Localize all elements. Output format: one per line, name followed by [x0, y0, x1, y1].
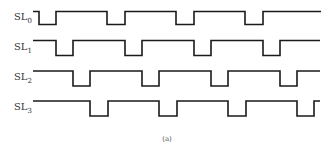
waveform-sl1 — [33, 41, 320, 56]
signal-label-sl0: SL0 — [14, 11, 32, 25]
timing-diagram-canvas: SL0SL1SL2SL3 (a) — [0, 0, 336, 150]
figure-caption: (a) — [162, 135, 172, 143]
signal-label-sl2: SL2 — [14, 71, 32, 85]
signal-label-sl3: SL3 — [14, 101, 32, 115]
waveform-sl2 — [33, 71, 320, 86]
waveform-sl3 — [33, 101, 320, 116]
waveforms — [33, 12, 321, 117]
signal-labels: SL0SL1SL2SL3 — [14, 11, 32, 115]
timing-diagram: SL0SL1SL2SL3 (a) — [0, 0, 336, 150]
waveform-sl0 — [33, 12, 321, 25]
signal-label-sl1: SL1 — [14, 41, 32, 55]
